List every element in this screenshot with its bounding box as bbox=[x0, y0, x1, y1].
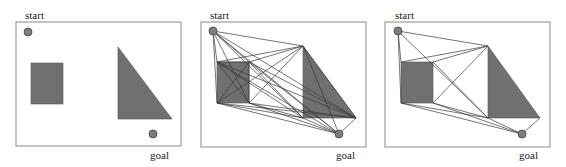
start-label: start bbox=[210, 9, 229, 21]
panel-reduced-visibility-graph: startgoal bbox=[385, 9, 550, 161]
goal-label: goal bbox=[519, 149, 538, 161]
goal-label: goal bbox=[336, 149, 355, 161]
start-node bbox=[24, 28, 32, 36]
panel-workspace: startgoal bbox=[16, 9, 181, 161]
start-node bbox=[209, 27, 217, 35]
figure-canvas: startgoal startgoal startgoal bbox=[0, 0, 566, 167]
goal-node bbox=[335, 130, 343, 138]
rectangle-obstacle bbox=[31, 63, 63, 104]
goal-node bbox=[518, 130, 526, 138]
start-node bbox=[394, 27, 402, 35]
start-label: start bbox=[25, 9, 44, 21]
panel-full-visibility-graph: startgoal bbox=[201, 9, 366, 161]
goal-node bbox=[149, 130, 157, 138]
rectangle-obstacle bbox=[401, 62, 433, 103]
start-label: start bbox=[395, 9, 414, 21]
goal-label: goal bbox=[150, 149, 169, 161]
